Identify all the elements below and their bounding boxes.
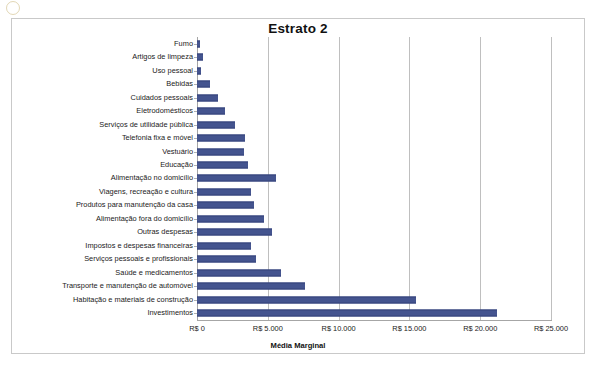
plot-area: FumoArtigos de limpezaUso pessoalBebidas…: [197, 37, 551, 320]
x-tick-label: R$ 0: [189, 324, 205, 333]
bar[interactable]: [197, 188, 251, 195]
bar[interactable]: [197, 94, 218, 101]
category-label: Bebidas: [166, 80, 193, 87]
bar[interactable]: [197, 310, 497, 317]
chart-row: Investimentos: [197, 307, 551, 320]
category-label: Educação: [160, 161, 193, 168]
chart-row: Produtos para manutenção da casa: [197, 199, 551, 212]
bar[interactable]: [197, 229, 272, 236]
bar[interactable]: [197, 121, 235, 128]
x-axis-title: Média Marginal: [12, 341, 584, 350]
bar[interactable]: [197, 81, 210, 88]
bar[interactable]: [197, 148, 244, 155]
category-label: Transporte e manutenção de automóvel: [62, 283, 193, 290]
chart-row: Fumo: [197, 37, 551, 50]
bar[interactable]: [197, 269, 281, 276]
category-label: Artigos de limpeza: [132, 54, 193, 61]
category-label: Alimentação no domicílio: [111, 175, 193, 182]
category-label: Eletrodomésticos: [136, 107, 193, 114]
x-tick-label: R$ 10.000: [322, 324, 356, 333]
bar[interactable]: [197, 256, 256, 263]
bar[interactable]: [197, 54, 203, 61]
chart-row: Alimentação fora do domicílio: [197, 212, 551, 225]
bar[interactable]: [197, 67, 201, 74]
category-label: Impostos e despesas financeiras: [85, 242, 193, 249]
bar[interactable]: [197, 215, 264, 222]
chart-row: Saúde e medicamentos: [197, 266, 551, 279]
x-tick-label: R$ 25.000: [534, 324, 568, 333]
bar[interactable]: [197, 296, 416, 303]
bar[interactable]: [197, 40, 200, 47]
chart-row: Vestuário: [197, 145, 551, 158]
bar[interactable]: [197, 135, 245, 142]
chart-row: Alimentação no domicílio: [197, 172, 551, 185]
chart-row: Eletrodomésticos: [197, 104, 551, 117]
category-label: Vestuário: [162, 148, 193, 155]
chart-row: Bebidas: [197, 77, 551, 90]
x-tick-label: R$ 15.000: [392, 324, 426, 333]
bar[interactable]: [197, 242, 251, 249]
category-label: Produtos para manutenção da casa: [76, 202, 193, 209]
gridline-25000: [551, 37, 552, 320]
chart-title: Estrato 2: [12, 21, 584, 36]
category-label: Fumo: [174, 40, 193, 47]
chart-row: Outras despesas: [197, 226, 551, 239]
chart-frame: Estrato 2 FumoArtigos de limpezaUso pess…: [11, 18, 585, 354]
category-label: Serviços de utilidade pública: [99, 121, 193, 128]
category-label: Cuidados pessoais: [131, 94, 193, 101]
scan-artifact: [6, 1, 20, 15]
bar[interactable]: [197, 175, 276, 182]
category-label: Viagens, recreação e cultura: [99, 188, 193, 195]
category-label: Habitação e materiais de construção: [73, 296, 193, 303]
chart-row: Viagens, recreação e cultura: [197, 185, 551, 198]
x-tick-label: R$ 5.000: [253, 324, 283, 333]
chart-row: Serviços de utilidade pública: [197, 118, 551, 131]
chart-row: Transporte e manutenção de automóvel: [197, 280, 551, 293]
category-label: Telefonia fixa e móvel: [122, 134, 193, 141]
chart-row: Telefonia fixa e móvel: [197, 131, 551, 144]
category-label: Alimentação fora do domicílio: [96, 215, 193, 222]
bar[interactable]: [197, 202, 254, 209]
bar[interactable]: [197, 283, 305, 290]
category-label: Outras despesas: [137, 229, 193, 236]
chart-row: Artigos de limpeza: [197, 50, 551, 63]
category-label: Saúde e medicamentos: [115, 269, 193, 276]
category-label: Investimentos: [147, 310, 193, 317]
category-label: Serviços pessoais e profissionais: [84, 256, 193, 263]
chart-row: Habitação e materiais de construção: [197, 293, 551, 306]
chart-row: Serviços pessoais e profissionais: [197, 253, 551, 266]
x-tick-label: R$ 20.000: [463, 324, 497, 333]
x-axis-baseline: [197, 320, 552, 321]
bar[interactable]: [197, 108, 225, 115]
chart-row: Impostos e despesas financeiras: [197, 239, 551, 252]
category-label: Uso pessoal: [152, 67, 193, 74]
chart-row: Uso pessoal: [197, 64, 551, 77]
bar[interactable]: [197, 162, 248, 169]
chart-row: Educação: [197, 158, 551, 171]
chart-row: Cuidados pessoais: [197, 91, 551, 104]
